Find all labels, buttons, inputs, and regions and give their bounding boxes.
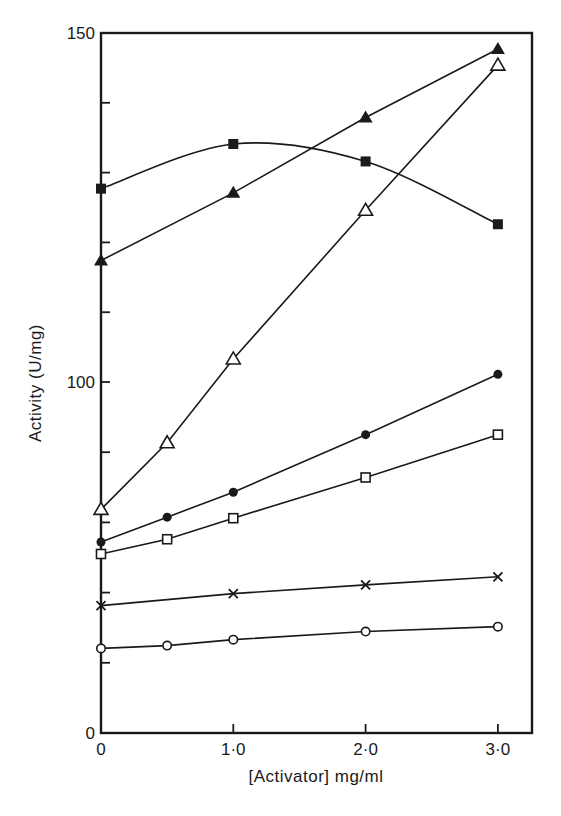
circle-open-marker-icon bbox=[163, 641, 171, 649]
y-axis: 0100150 bbox=[67, 24, 110, 743]
line-chart-svg: 0100150 01·02·03·0 Activity (U/mg) [Acti… bbox=[0, 0, 561, 816]
triangle-open-marker-icon bbox=[491, 58, 505, 70]
x-tick-label: 2·0 bbox=[353, 740, 378, 759]
chart: 0100150 01·02·03·0 Activity (U/mg) [Acti… bbox=[0, 0, 561, 816]
x-tick-label: 3·0 bbox=[486, 740, 511, 759]
triangle-filled-marker-icon bbox=[359, 110, 373, 122]
series-open-circle bbox=[97, 622, 502, 652]
circle-filled-marker-icon bbox=[361, 430, 370, 439]
x-axis-title: [Activator] mg/ml bbox=[248, 767, 383, 786]
square-open-marker-icon bbox=[493, 430, 502, 439]
series-line bbox=[101, 435, 498, 554]
series-group bbox=[94, 42, 505, 653]
series-open-triangle bbox=[94, 58, 505, 514]
circle-open-marker-icon bbox=[229, 635, 237, 643]
circle-filled-marker-icon bbox=[493, 370, 502, 379]
x-tick-label: 1·0 bbox=[221, 740, 246, 759]
series-open-square bbox=[97, 430, 503, 558]
series-filled-triangle bbox=[94, 42, 505, 265]
circle-filled-marker-icon bbox=[163, 513, 172, 522]
series-filled-circle bbox=[97, 370, 503, 547]
square-filled-marker-icon bbox=[228, 139, 238, 149]
x-tick-label: 0 bbox=[96, 740, 105, 759]
series-line bbox=[101, 65, 498, 509]
triangle-filled-marker-icon bbox=[226, 186, 240, 198]
square-open-marker-icon bbox=[163, 535, 172, 544]
circle-filled-marker-icon bbox=[229, 488, 238, 497]
square-filled-marker-icon bbox=[96, 184, 106, 194]
circle-open-marker-icon bbox=[361, 627, 369, 635]
circle-open-marker-icon bbox=[494, 622, 502, 630]
series-line bbox=[101, 374, 498, 542]
y-tick-label: 100 bbox=[67, 373, 95, 392]
circle-open-marker-icon bbox=[97, 644, 105, 652]
series-line bbox=[101, 577, 498, 606]
square-filled-marker-icon bbox=[493, 219, 503, 229]
circle-filled-marker-icon bbox=[97, 538, 106, 547]
y-tick-label: 150 bbox=[67, 24, 95, 43]
square-open-marker-icon bbox=[229, 514, 238, 523]
square-open-marker-icon bbox=[97, 549, 106, 558]
series-line bbox=[101, 627, 498, 649]
series-filled-square bbox=[96, 139, 503, 229]
square-filled-marker-icon bbox=[361, 156, 371, 166]
y-axis-title: Activity (U/mg) bbox=[26, 324, 45, 442]
y-tick-label: 0 bbox=[86, 724, 95, 743]
triangle-filled-marker-icon bbox=[491, 42, 505, 54]
series-line bbox=[101, 49, 498, 260]
series-cross bbox=[97, 572, 503, 610]
triangle-filled-marker-icon bbox=[94, 254, 108, 266]
x-axis: 01·02·03·0 bbox=[96, 724, 510, 759]
square-open-marker-icon bbox=[361, 473, 370, 482]
